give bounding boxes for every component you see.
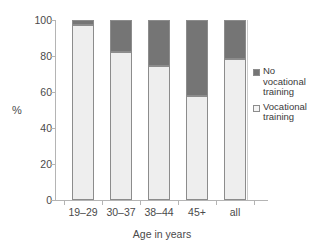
- x-tick-mark-1: [102, 201, 103, 205]
- bar-segment-vocational-training[interactable]: [72, 25, 94, 201]
- bar-30–37[interactable]: [110, 20, 132, 200]
- bar-segment-no-vocational-training[interactable]: [224, 20, 246, 59]
- x-tick-mark-4: [216, 201, 217, 205]
- bar-segment-vocational-training[interactable]: [148, 66, 170, 200]
- y-tick-mark-0: [51, 200, 55, 201]
- bar-segment-vocational-training[interactable]: [186, 96, 208, 200]
- x-tick-mark-5: [254, 201, 255, 205]
- x-axis-line: [55, 200, 268, 201]
- legend-label: No vocational training: [263, 66, 306, 98]
- y-tick-label-60: 60: [26, 86, 52, 98]
- dark-filled-square-icon: [253, 69, 260, 76]
- y-tick-mark-20: [51, 164, 55, 165]
- y-tick-mark-60: [51, 92, 55, 93]
- bar-segment-no-vocational-training[interactable]: [148, 20, 170, 66]
- bar-all[interactable]: [224, 20, 246, 200]
- x-tick-mark-3: [178, 201, 179, 205]
- legend-divider: [247, 20, 248, 200]
- x-tick-label-all: all: [200, 206, 270, 218]
- y-tick-mark-80: [51, 56, 55, 57]
- legend-entry-1[interactable]: Vocational training: [253, 102, 325, 123]
- light-outlined-square-icon: [253, 105, 260, 112]
- bar-segment-no-vocational-training[interactable]: [186, 20, 208, 96]
- y-tick-label-40: 40: [26, 122, 52, 134]
- plot-area: 19–2930–3738–4445+all: [56, 20, 268, 200]
- y-tick-label-80: 80: [26, 50, 52, 62]
- bar-19–29[interactable]: [72, 20, 94, 200]
- y-tick-mark-40: [51, 128, 55, 129]
- bar-45+[interactable]: [186, 20, 208, 200]
- y-tick-label-20: 20: [26, 158, 52, 170]
- legend-label: Vocational training: [263, 102, 307, 123]
- bar-segment-no-vocational-training[interactable]: [110, 20, 132, 52]
- y-tick-mark-100: [51, 20, 55, 21]
- bar-38–44[interactable]: [148, 20, 170, 200]
- x-tick-mark-0: [64, 201, 65, 205]
- chart-legend: No vocational trainingVocational trainin…: [253, 66, 325, 127]
- bar-segment-vocational-training[interactable]: [110, 52, 132, 201]
- bar-segment-vocational-training[interactable]: [224, 59, 246, 200]
- y-tick-label-0: 0: [26, 194, 52, 206]
- legend-entry-0[interactable]: No vocational training: [253, 66, 325, 98]
- y-axis-line: [55, 20, 56, 201]
- stacked-bar-chart: % 0 20 40 60 80 100 19–2930–3738–4445+al…: [0, 0, 325, 249]
- y-axis-title: %: [12, 104, 22, 116]
- x-axis-title: Age in years: [56, 228, 268, 240]
- y-tick-label-100: 100: [26, 14, 52, 26]
- x-tick-mark-2: [140, 201, 141, 205]
